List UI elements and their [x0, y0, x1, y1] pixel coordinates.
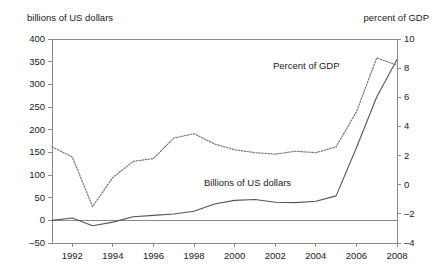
- x-axis-tick-label: 2008: [373, 251, 421, 261]
- y-axis-tick-label: 300: [0, 79, 45, 89]
- y-axis-tick-label: 100: [0, 170, 45, 180]
- y2-axis-tick-label: 2: [404, 151, 409, 161]
- series-line-billions-of-us-dollars: [52, 59, 397, 225]
- y-axis-tick-label: 250: [0, 102, 45, 112]
- chart-plot: [0, 0, 439, 277]
- y-axis-tick-label: 400: [0, 34, 45, 44]
- y-axis-tick-label: –50: [0, 238, 45, 248]
- y2-axis-tick-label: 4: [404, 121, 409, 131]
- y-axis-tick-label: 50: [0, 193, 45, 203]
- y2-axis-tick-label: 10: [404, 34, 415, 44]
- y2-axis-tick-label: 8: [404, 63, 409, 73]
- y-axis-tick-label: 350: [0, 57, 45, 67]
- y2-axis-tick-label: –2: [404, 209, 415, 219]
- series-label-billions-of-us-dollars: Billions of US dollars: [204, 177, 291, 188]
- y-axis-tick-label: 0: [0, 215, 45, 225]
- y2-axis-tick-label: 0: [404, 180, 409, 190]
- chart-container: billions of US dollars percent of GDP 40…: [0, 0, 439, 277]
- y2-axis-tick-label: 6: [404, 92, 409, 102]
- series-label-percent-of-gdp: Percent of GDP: [273, 60, 340, 71]
- y-axis-tick-label: 150: [0, 147, 45, 157]
- y-axis-tick-label: 200: [0, 125, 45, 135]
- y2-axis-tick-label: –4: [404, 238, 415, 248]
